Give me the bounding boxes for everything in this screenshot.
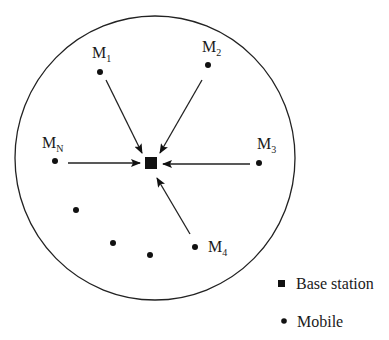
mobile-dot-M2 [205,62,211,68]
mobile-dot-m8 [147,252,153,258]
mobile-dot-M3 [256,160,262,166]
mobile-dot-m7 [110,240,116,246]
mobile-label-M4: M4 [208,238,227,258]
legend-base-station-label: Base station [296,275,374,292]
legend-mobile-icon [281,318,287,324]
mobile-labels: M1M2M3M4MN [42,38,276,258]
uplink-arrows [68,80,250,234]
uplink-arrow-M4 [157,178,190,234]
mobile-dot-M4 [192,244,198,250]
mobile-label-M3: M3 [257,135,276,155]
uplink-cell-diagram: M1M2M3M4MN Base station Mobile [0,0,389,340]
mobile-dot-m6 [73,207,79,213]
legend-base-station-icon [278,280,285,287]
uplink-arrow-M1 [106,80,142,153]
uplink-arrow-M2 [160,80,202,153]
mobile-dot-MN [52,158,58,164]
legend: Base station Mobile [278,275,374,330]
mobile-label-M1: M1 [92,44,111,64]
legend-mobile-label: Mobile [297,313,343,330]
mobile-label-MN: MN [42,134,63,154]
mobile-dot-M1 [97,69,103,75]
base-station-icon [145,157,157,169]
mobile-label-M2: M2 [202,38,221,58]
